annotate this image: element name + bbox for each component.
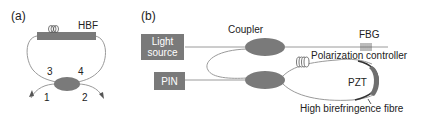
diagram-canvas: (a) HBF 3 4 1 2 (b) [0,0,424,122]
pin-label: PIN [161,76,178,87]
light-source-label-2: source [147,47,177,58]
panel-a: (a) HBF 3 4 1 2 [11,9,105,103]
coupler-top [245,38,285,56]
hbf-bar [37,32,96,40]
panel-b: (b) Light source PIN Coupler [141,9,408,114]
port-4-label: 4 [78,66,84,77]
fibre-coupler-loop [207,49,247,78]
light-source-label-1: Light [152,36,174,47]
panel-b-label: (b) [141,9,156,23]
fibre-coil-icon [49,26,59,33]
port-3-label: 3 [47,66,53,77]
fbg-label: FBG [359,29,380,40]
polarization-controller-label: Polarization controller [311,50,408,61]
port-1-label: 1 [44,92,50,103]
port-2-label: 2 [82,92,88,103]
coupler-bottom [245,71,285,89]
pzt-label: PZT [348,77,367,88]
pzt-actuator [369,66,379,96]
hbf-label: HBF [78,20,98,31]
coupler-a [54,77,80,91]
hbf-fibre-label: High birefringence fibre [300,103,404,114]
coupler-label: Coupler [228,24,264,35]
panel-a-label: (a) [11,9,26,23]
polarization-controller-icon [297,57,310,67]
